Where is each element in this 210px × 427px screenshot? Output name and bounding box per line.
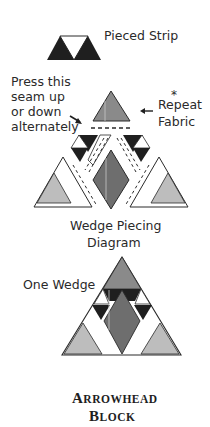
title-initial-b: B — [89, 408, 100, 424]
repeat-fabric-triangle — [93, 91, 130, 121]
wedge-piecing-figure — [34, 135, 188, 209]
repeat-fabric-label-line2: Fabric — [158, 114, 195, 129]
arrow-repeat-fabric-icon — [140, 108, 153, 114]
wedge-piecing-label-line2: Diagram — [87, 235, 141, 250]
arrowhead-diagram-graphics — [0, 0, 210, 427]
one-wedge-label: One Wedge — [23, 277, 95, 292]
one-wedge-figure — [62, 257, 181, 355]
press-seam-label-line1: Press this — [11, 74, 71, 89]
press-seam-label-line4: alternately — [11, 119, 79, 134]
block-title-line2: BLOCK — [89, 407, 135, 425]
title-rest-arrowhead: RROWHEAD — [83, 393, 157, 405]
press-seam-label-line3: or down — [11, 104, 62, 119]
pieced-strip-label: Pieced Strip — [104, 28, 178, 43]
press-seam-label-line2: seam up — [11, 89, 65, 104]
repeat-fabric-label-line1: Repeat — [158, 97, 202, 112]
wedge-piecing-label-line1: Wedge Piecing — [70, 218, 161, 233]
title-initial-a: A — [72, 390, 83, 406]
block-title-line1: ARROWHEAD — [72, 389, 158, 407]
title-rest-block: LOCK — [100, 411, 136, 423]
pieced-strip-figure — [47, 36, 101, 60]
